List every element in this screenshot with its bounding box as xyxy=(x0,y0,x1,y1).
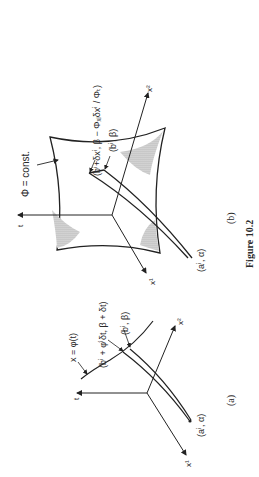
leader-upper xyxy=(108,340,123,351)
start-point xyxy=(188,419,191,422)
t-axis-label-a: t xyxy=(72,398,81,400)
point-upper-label-a: (bⁱ + φ̇ⁱδt, β + δt) xyxy=(98,301,108,368)
panel-a-diagram xyxy=(77,321,192,455)
surface-label: Φ = const. xyxy=(20,151,31,197)
point-mid-label-a: (bⁱ, β) xyxy=(120,312,130,335)
x2-axis xyxy=(147,326,175,393)
curve-label: x = φ(t) xyxy=(68,333,78,362)
panel-b-diagram xyxy=(18,93,192,273)
point-start-label-b: (aⁱ, α) xyxy=(196,249,206,272)
figure-drawing xyxy=(0,0,259,477)
x2-axis-label-a: x² xyxy=(176,318,185,325)
panel-a-label: (a) xyxy=(225,395,236,406)
t-axis-label-b: t xyxy=(16,225,25,227)
point-start-label-a: (aⁱ, α) xyxy=(196,414,206,437)
x1-axis-label-b: x¹ xyxy=(148,278,157,285)
x2-axis-label-b: x² xyxy=(145,85,154,92)
point-mid-label-b: (bⁱ, β) xyxy=(108,129,118,152)
x1-axis xyxy=(147,393,186,455)
x1-axis-label-a: x¹ xyxy=(184,460,193,467)
trajectory-upper xyxy=(123,352,189,420)
point-upper-label-b: (bⁱ+δxⁱ, β − Φₓᵢδxⁱ / Φₜ) xyxy=(92,85,102,176)
leader-curve xyxy=(78,362,87,374)
curve-phi xyxy=(81,321,153,379)
figure-caption: Figure 10.2 xyxy=(244,220,255,268)
panel-b-label: (b) xyxy=(225,212,236,224)
